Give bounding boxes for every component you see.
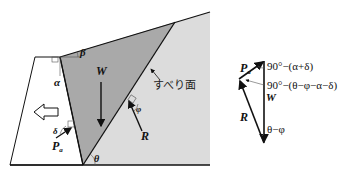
weight-label: W (96, 64, 108, 78)
angle-mid-pointer (246, 80, 264, 85)
retaining-wall-diagram: β α W すべり面 φ R δ Pa θ Pa W R 90°−(α+δ) 9… (0, 0, 355, 174)
angle-bottom-label: θ−φ (267, 123, 285, 135)
angle-top-label: 90°−(α+δ) (267, 60, 313, 73)
slip-surface-label: すべり面 (153, 79, 196, 92)
delta-label: δ (53, 126, 58, 136)
reaction-label: R (140, 129, 149, 143)
polygon-pa-label: Pa (240, 61, 251, 76)
alpha-label: α (54, 76, 61, 88)
polygon-r-label: R (239, 110, 248, 124)
phi-label: φ (136, 104, 141, 114)
angle-arc-top (258, 66, 264, 68)
beta-label: β (79, 46, 86, 58)
theta-label: θ (94, 153, 100, 164)
angle-mid-label: 90°−(θ−φ−α−δ) (267, 79, 337, 92)
polygon-w-label: W (266, 91, 277, 103)
